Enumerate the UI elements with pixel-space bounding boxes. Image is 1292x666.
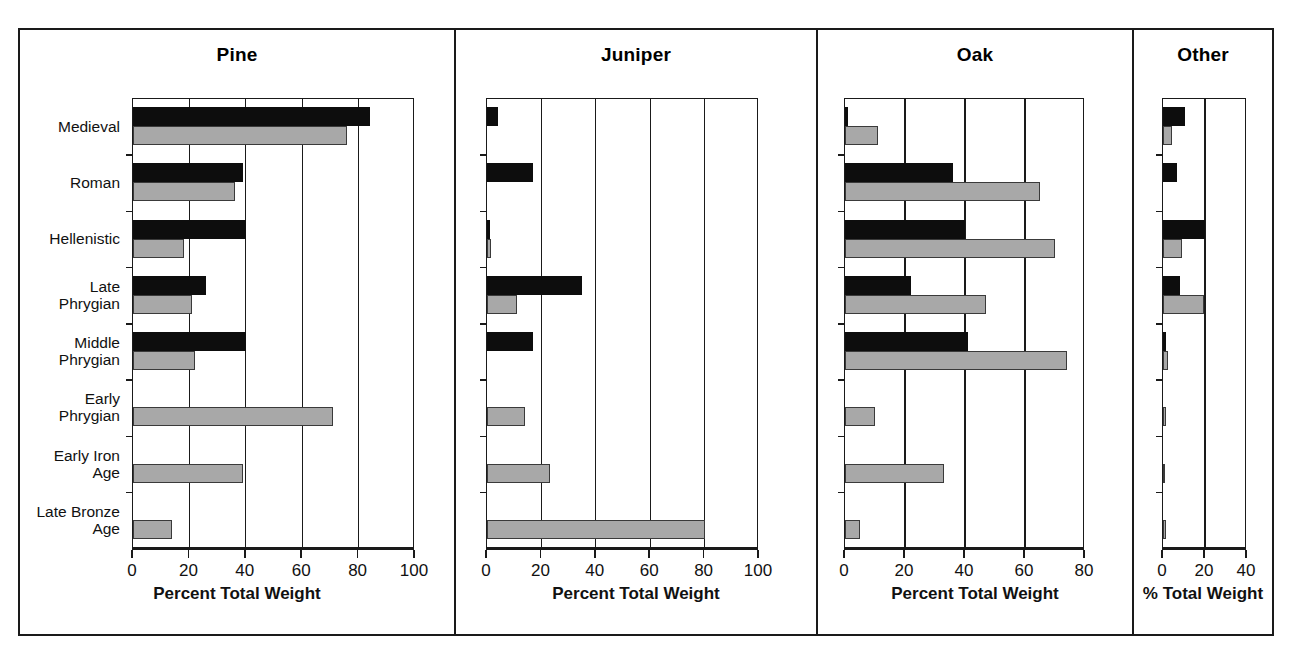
x-axis-tick-label: 0 [481, 561, 490, 581]
panel-title: Other [1134, 30, 1272, 64]
bar [845, 520, 860, 539]
panel-body: MedievalRomanHellenisticLate PhrygianMid… [20, 64, 454, 634]
bar [845, 126, 878, 145]
category-tick [480, 211, 487, 213]
bar [845, 107, 848, 126]
gridline [595, 99, 596, 547]
x-axis-tick-label: 20 [1195, 561, 1214, 581]
category-label: Early Phrygian [20, 390, 120, 424]
chart-frame: PineMedievalRomanHellenisticLate Phrygia… [18, 28, 1274, 636]
bar [845, 239, 1055, 258]
bar [133, 295, 192, 314]
category-tick [480, 492, 487, 494]
x-axis-tick-label: 60 [640, 561, 659, 581]
panel-other: Other02040% Total Weight [1132, 30, 1272, 634]
bar [1163, 239, 1182, 258]
bar [487, 163, 533, 182]
gridline [302, 99, 303, 547]
x-axis-tick [1245, 550, 1247, 558]
x-axis-tick-label: 60 [1015, 561, 1034, 581]
x-axis-tick [244, 550, 246, 558]
x-axis-tick [485, 550, 487, 558]
bar [1163, 295, 1204, 314]
x-axis-tick-label: 40 [585, 561, 604, 581]
gridline [358, 99, 359, 547]
gridline [1024, 99, 1025, 547]
x-axis-tick-label: 60 [292, 561, 311, 581]
category-label: Roman [20, 174, 120, 191]
bar [133, 107, 370, 126]
bar [133, 407, 333, 426]
x-axis-tick [703, 550, 705, 558]
x-axis-title: % Total Weight [1134, 584, 1272, 604]
gridline [245, 99, 246, 547]
x-axis-line [132, 548, 414, 550]
x-axis-title: Percent Total Weight [818, 584, 1132, 604]
category-tick [1156, 267, 1163, 269]
category-tick [838, 267, 845, 269]
bar [845, 276, 911, 295]
x-axis-tick-label: 100 [744, 561, 772, 581]
category-tick [480, 154, 487, 156]
x-axis-tick-label: 20 [895, 561, 914, 581]
bar [133, 239, 184, 258]
bar [133, 163, 243, 182]
panel-title: Juniper [456, 30, 816, 64]
category-label: Late Bronze Age [20, 503, 120, 537]
panel-oak: Oak020406080Percent Total Weight [816, 30, 1132, 634]
bar [487, 239, 491, 258]
x-axis-tick [1161, 550, 1163, 558]
x-axis-tick [843, 550, 845, 558]
x-axis-tick-label: 40 [955, 561, 974, 581]
x-axis-tick [540, 550, 542, 558]
x-axis-tick [1023, 550, 1025, 558]
bar [1163, 276, 1180, 295]
category-tick [480, 436, 487, 438]
x-axis-tick-label: 80 [694, 561, 713, 581]
x-axis-tick-label: 80 [348, 561, 367, 581]
x-axis-tick [300, 550, 302, 558]
x-axis-tick [594, 550, 596, 558]
plot-area [486, 98, 758, 548]
panel-pine: PineMedievalRomanHellenisticLate Phrygia… [20, 30, 454, 634]
category-tick [480, 323, 487, 325]
x-axis-tick-label: 0 [839, 561, 848, 581]
x-axis-tick-label: 80 [1075, 561, 1094, 581]
x-axis-title: Percent Total Weight [456, 584, 816, 604]
x-axis-tick [413, 550, 415, 558]
bar [487, 220, 490, 239]
bar [1163, 163, 1177, 182]
category-tick [126, 492, 133, 494]
category-tick [480, 267, 487, 269]
bar [487, 332, 533, 351]
x-axis-tick-label: 100 [400, 561, 428, 581]
bar [845, 407, 875, 426]
x-axis-tick-label: 20 [531, 561, 550, 581]
x-axis-tick [357, 550, 359, 558]
category-tick [480, 379, 487, 381]
bar [845, 220, 965, 239]
bar [133, 276, 206, 295]
category-tick [1156, 211, 1163, 213]
category-tick [1156, 379, 1163, 381]
bar [845, 332, 968, 351]
plot-area [1162, 98, 1246, 548]
bar [1163, 220, 1205, 239]
bar [133, 520, 172, 539]
bar [1163, 407, 1166, 426]
panel-title: Pine [20, 30, 454, 64]
x-axis-tick [1083, 550, 1085, 558]
category-tick [838, 492, 845, 494]
category-label: Middle Phrygian [20, 334, 120, 368]
x-axis-line [486, 548, 758, 550]
category-label: Early Iron Age [20, 447, 120, 481]
x-axis-tick [903, 550, 905, 558]
panel-body: 02040% Total Weight [1134, 64, 1272, 634]
x-axis-tick [757, 550, 759, 558]
category-label: Hellenistic [20, 230, 120, 247]
panel-body: 020406080100Percent Total Weight [456, 64, 816, 634]
category-tick [1156, 154, 1163, 156]
bar [133, 332, 246, 351]
bar [1163, 464, 1165, 483]
bar [133, 351, 195, 370]
